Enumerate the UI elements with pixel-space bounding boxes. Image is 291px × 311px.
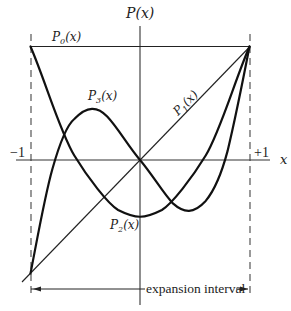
tick-label-plus-one: +1 — [254, 145, 269, 160]
p1-curve — [22, 47, 250, 283]
expansion-interval-label: expansion interval — [146, 281, 246, 296]
x-axis-label: x — [280, 152, 288, 167]
p1-label: P1(x) — [170, 87, 203, 120]
p2-label: P2(x) — [109, 218, 140, 234]
tick-label-minus-one: −1 — [10, 145, 25, 160]
legendre-diagram: P(x) x −1 +1 P0(x) P3(x) P1(x) P2(x) exp… — [0, 0, 291, 311]
p0-label: P0(x) — [51, 30, 82, 46]
p3-label: P3(x) — [87, 89, 118, 105]
y-axis-label: P(x) — [125, 5, 154, 21]
